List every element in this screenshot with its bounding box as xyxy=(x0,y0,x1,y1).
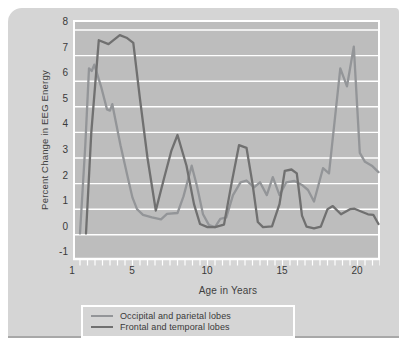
x-tick-label: 10 xyxy=(201,265,212,276)
figure-panel: Percent Change in EEG Energy 876543210-1… xyxy=(8,8,399,338)
y-tick-label: 5 xyxy=(46,93,68,104)
legend-label: Occipital and parietal lobes xyxy=(120,311,231,321)
y-tick-label: 4 xyxy=(46,118,68,129)
y-tick-label: 3 xyxy=(46,144,68,155)
y-tick-label: 7 xyxy=(46,42,68,53)
y-tick-label: 0 xyxy=(46,221,68,232)
y-tick-label: 6 xyxy=(46,67,68,78)
y-tick-label: -1 xyxy=(46,246,68,257)
x-axis-title: Age in Years xyxy=(199,285,258,296)
eeg-line-chart xyxy=(73,20,380,268)
frontal-temporal-line-swatch xyxy=(91,326,113,328)
legend-label: Frontal and temporal lobes xyxy=(120,322,230,332)
legend: Occipital and parietal lobes Frontal and… xyxy=(81,305,295,338)
x-tick-label: 15 xyxy=(276,265,287,276)
x-tick-label: 1 xyxy=(69,265,75,276)
legend-row: Occipital and parietal lobes xyxy=(91,310,287,321)
x-tick-label: 20 xyxy=(351,265,362,276)
page: { "colors": { "page_bg": "#ffffff", "fig… xyxy=(0,0,405,350)
occipital-parietal-line-swatch xyxy=(91,315,113,317)
legend-row: Frontal and temporal lobes xyxy=(91,321,287,332)
x-tick-label: 5 xyxy=(129,265,135,276)
y-tick-label: 8 xyxy=(46,16,68,27)
y-tick-label: 2 xyxy=(46,170,68,181)
y-tick-label: 1 xyxy=(46,195,68,206)
